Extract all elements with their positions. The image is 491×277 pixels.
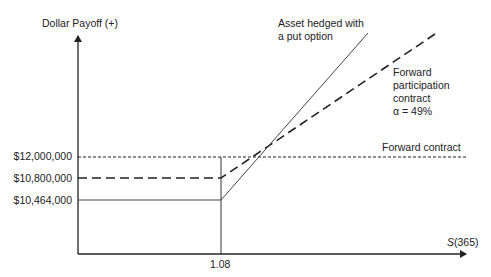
x-axis-label-arg: (365) <box>454 236 479 248</box>
payoff-chart <box>0 0 491 277</box>
y-tick-10464000: $10,464,000 <box>0 194 72 206</box>
forward-participation-annotation: Forward participation contract α = 49% <box>393 66 450 118</box>
y-axis-label: Dollar Payoff (+) <box>42 17 118 30</box>
fpc-annotation-line3: contract <box>393 92 450 105</box>
put-hedge-annotation: Asset hedged with a put option <box>278 17 364 43</box>
put-hedge-annotation-line2: a put option <box>278 30 364 43</box>
x-tick-1.08: 1.08 <box>210 258 230 271</box>
forward-contract-annotation: Forward contract <box>382 141 461 154</box>
put-hedge-annotation-line1: Asset hedged with <box>278 17 364 30</box>
x-axis-label-variable: S <box>447 236 454 248</box>
x-axis-label: S(365) <box>447 236 479 249</box>
fpc-annotation-line2: participation <box>393 79 450 92</box>
y-tick-10800000: $10,800,000 <box>0 172 72 184</box>
forward-participation-line <box>78 32 438 178</box>
fpc-annotation-line1: Forward <box>393 66 450 79</box>
fpc-annotation-line4: α = 49% <box>393 105 450 118</box>
put-hedge-line <box>78 33 368 200</box>
y-tick-12000000: $12,000,000 <box>0 150 72 162</box>
